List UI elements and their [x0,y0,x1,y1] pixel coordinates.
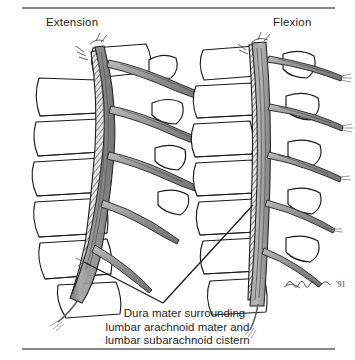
vertebral-body [193,160,255,196]
vertebral-body [196,199,257,235]
extension-intervertebral-discs [37,113,111,279]
cauda-equina [86,52,109,270]
spinal-nerve-root [107,60,215,104]
extension-vertebral-bodies [32,44,189,318]
vertebral-body [283,51,315,78]
extension-root-tips [198,97,225,190]
spinal-nerve-root [109,106,214,150]
spinal-nerve-root [267,56,342,81]
extension-view-group [32,33,225,331]
vertebral-body [288,140,321,166]
artist-signature: '91 [284,280,345,289]
view-label-extension: Extension [46,16,98,28]
flexion-view-group [191,32,353,338]
flexion-nerve-roots [262,56,343,287]
dura-mater-hatched [72,50,105,295]
extension-ink-accents [76,33,107,60]
caption-line-2: lumbar arachnoid mater and [0,321,355,335]
bottom-divider-rule [22,348,335,350]
flexion-root-tips [333,74,353,232]
vertebral-body [152,100,183,125]
top-divider-rule [22,7,335,9]
extension-root-sleeves [119,64,198,182]
caption-leader-lines [84,205,253,303]
vertebral-body [36,78,99,116]
spinal-nerve-root [92,245,152,293]
vertebral-body [288,188,321,214]
signature-year: '91 [336,280,345,289]
spinal-nerve-root [107,152,199,192]
flexion-root-sleeves [278,59,331,174]
vertebral-body [158,190,189,215]
subarachnoid-cistern [250,42,271,306]
leader-line-right [163,205,253,303]
caption-line-3: lumbar subarachnoid cistern [0,334,355,348]
dura-mater-hatched [248,44,262,300]
extension-nerve-roots [92,60,215,293]
vertebral-body [193,83,255,118]
cauda-equina [255,48,266,300]
vertebral-body [200,46,258,80]
view-label-flexion: Flexion [273,16,311,28]
figure-caption: Dura mater surrounding lumbar arachnoid … [0,307,355,348]
leader-line-tips [76,258,84,266]
spine-illustration: '91 [0,0,355,360]
vertebral-body [200,238,260,274]
flexion-vertebral-bodies [191,46,321,315]
spinal-nerve-root [268,104,343,131]
vertebral-body [32,158,105,196]
vertebral-body [34,119,102,156]
subarachnoid-cistern [70,46,115,303]
flexion-intervertebral-discs [195,115,259,274]
vertebral-body [34,198,108,237]
vertebral-body [191,121,253,157]
caption-line-1: Dura mater surrounding [0,307,355,321]
flexion-ink-accents [238,32,270,54]
spinal-nerve-root [101,200,179,244]
vertebral-body [39,239,112,279]
spinal-nerve-root [267,152,341,182]
vertebral-body [286,93,319,120]
leader-line-left [84,262,163,303]
vertebral-body [155,145,186,170]
spinal-nerve-root [262,248,322,287]
vertebral-body [92,44,151,78]
vertebral-body [149,55,177,78]
spinal-nerve-root [265,200,335,233]
vertebral-body [286,236,319,262]
figure-root: Extension Flexion [0,0,355,360]
